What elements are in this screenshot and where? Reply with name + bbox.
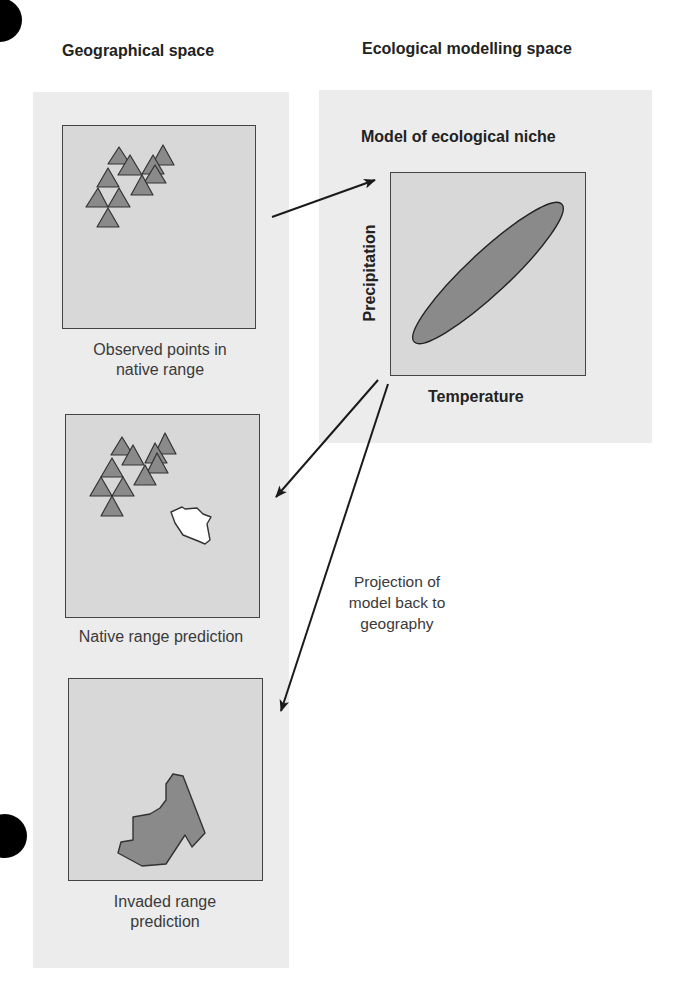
triangle-icon bbox=[112, 477, 134, 496]
diagram-graphics bbox=[0, 0, 673, 990]
triangle-icon bbox=[101, 458, 123, 477]
triangle-icon bbox=[97, 168, 119, 187]
niche-ellipse bbox=[400, 189, 576, 357]
occurrence-markers-observed bbox=[86, 145, 174, 227]
predicted-invaded-area bbox=[118, 774, 205, 866]
arrow-icon-to-invaded-prediction bbox=[281, 384, 388, 711]
arrow-icon-to-native-prediction bbox=[276, 380, 378, 497]
triangle-icon bbox=[97, 208, 119, 227]
triangle-icon bbox=[86, 188, 108, 207]
triangle-icon bbox=[108, 188, 130, 207]
occurrence-markers-native bbox=[90, 433, 176, 516]
arrow-icon-to-niche-model bbox=[272, 180, 375, 217]
predicted-native-area bbox=[171, 507, 211, 544]
triangle-icon bbox=[90, 477, 112, 496]
triangle-icon bbox=[101, 496, 123, 516]
